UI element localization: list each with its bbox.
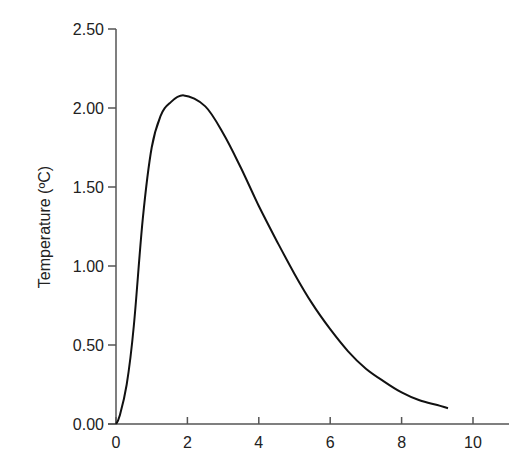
temperature-curve bbox=[116, 95, 448, 424]
y-tick-label: 2.50 bbox=[73, 21, 104, 38]
line-chart: 0.000.501.001.502.002.50 0246810 Tempera… bbox=[0, 0, 532, 476]
x-tick-label: 6 bbox=[326, 434, 335, 451]
x-tick-label: 8 bbox=[397, 434, 406, 451]
x-tick-label: 10 bbox=[464, 434, 482, 451]
y-tick-label: 1.00 bbox=[73, 258, 104, 275]
y-tick-label: 0.00 bbox=[73, 416, 104, 433]
x-tick-label: 4 bbox=[254, 434, 263, 451]
y-axis-label: Temperature (ºC) bbox=[36, 166, 53, 288]
y-tick-label: 2.00 bbox=[73, 100, 104, 117]
x-tick-label: 0 bbox=[112, 434, 121, 451]
x-tick-label: 2 bbox=[183, 434, 192, 451]
y-tick-label: 0.50 bbox=[73, 337, 104, 354]
x-axis: 0246810 bbox=[108, 417, 509, 451]
y-axis: 0.000.501.001.502.002.50 bbox=[73, 21, 116, 433]
y-tick-label: 1.50 bbox=[73, 179, 104, 196]
